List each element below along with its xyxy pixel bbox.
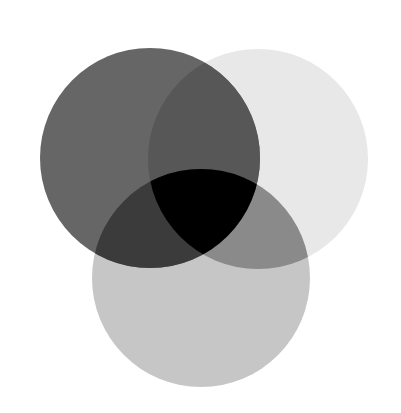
three-circle-venn-diagram (0, 0, 401, 413)
venn-diagram-canvas (0, 0, 401, 413)
